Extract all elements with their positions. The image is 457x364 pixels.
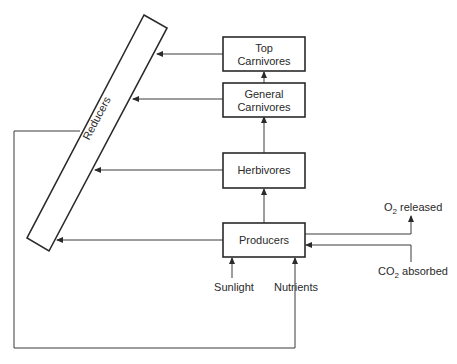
general-carnivores-node: General Carnivores xyxy=(223,83,305,117)
herbivores-node: Herbivores xyxy=(223,153,305,188)
co2-absorbed-label: CO2 absorbed xyxy=(378,265,448,280)
herbivores-label: Herbivores xyxy=(237,164,291,176)
arrow-producers-to-o2 xyxy=(305,216,411,234)
producers-label: Producers xyxy=(239,234,290,246)
producers-node: Producers xyxy=(223,223,305,257)
top-carnivores-line2: Carnivores xyxy=(237,55,291,67)
top-carnivores-line1: Top xyxy=(255,42,273,54)
sunlight-label: Sunlight xyxy=(214,281,254,293)
general-carnivores-line2: Carnivores xyxy=(237,101,291,113)
o2-released-label: O2 released xyxy=(384,201,442,216)
nutrients-label: Nutrients xyxy=(274,281,319,293)
arrow-co2-to-producers xyxy=(306,245,411,262)
general-carnivores-line1: General xyxy=(244,88,283,100)
ecosystem-diagram: Reducers Top Carnivores General Carnivor… xyxy=(0,0,457,364)
reducers-node: Reducers xyxy=(27,15,167,251)
top-carnivores-node: Top Carnivores xyxy=(223,37,305,71)
reducers-bar xyxy=(27,15,167,251)
